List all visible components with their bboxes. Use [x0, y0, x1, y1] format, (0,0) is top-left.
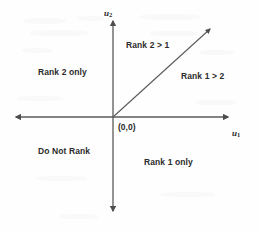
region-label-do-not-rank: Do Not Rank	[38, 147, 90, 156]
origin-label: (0,0)	[118, 123, 135, 132]
region-label-rank-2-greater-1: Rank 2 > 1	[126, 41, 169, 50]
x-axis-label: u1	[232, 129, 240, 138]
region-label-rank-2-only: Rank 2 only	[38, 68, 87, 77]
ranking-regions-figure: u2 u1 (0,0) Rank 2 > 1 Rank 2 only Rank …	[0, 0, 258, 232]
region-label-rank-1-greater-2: Rank 1 > 2	[181, 72, 224, 81]
axes-and-diagonal	[0, 0, 258, 232]
y-axis-label: u2	[104, 9, 112, 18]
region-label-rank-1-only: Rank 1 only	[144, 158, 193, 167]
